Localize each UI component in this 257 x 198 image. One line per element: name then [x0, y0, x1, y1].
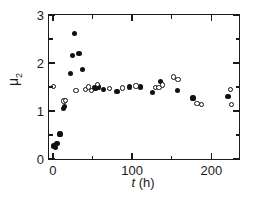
y-tick-label: 2 [37, 57, 44, 70]
y-axis-title-symbol: μ [5, 78, 21, 86]
x-tick-major [131, 153, 132, 159]
data-point-filled [54, 141, 59, 146]
data-point-open [229, 102, 234, 107]
data-point-filled [127, 84, 132, 89]
x-tick-major-top [211, 15, 212, 21]
data-point-filled [70, 53, 75, 58]
data-point-filled [57, 131, 62, 136]
y-tick-minor [49, 134, 53, 135]
y-tick-label: 3 [37, 9, 44, 22]
data-point-filled [101, 87, 106, 92]
x-tick-major [211, 153, 212, 159]
x-axis-title-unit: (h) [135, 175, 155, 190]
y-tick-label: 1 [37, 105, 44, 118]
y-axis-title-subscript: 2 [14, 73, 24, 78]
data-point-filled [62, 104, 67, 109]
data-point-filled [150, 90, 155, 95]
data-point-filled [175, 88, 180, 93]
y-tick-minor-right [236, 134, 240, 135]
x-tick-minor [92, 156, 93, 160]
data-point-filled [76, 51, 81, 56]
y-tick-major-right [233, 62, 239, 63]
data-point-open [133, 83, 138, 88]
data-point-open [107, 86, 112, 91]
y-tick-label: 0 [37, 153, 44, 166]
y-tick-minor-right [236, 86, 240, 87]
y-tick-minor [49, 86, 53, 87]
x-tick-major [52, 153, 53, 159]
data-point-open [89, 88, 94, 93]
data-point-open [73, 88, 78, 93]
y-tick-major [49, 62, 55, 63]
y-tick-major [49, 110, 55, 111]
data-point-open [160, 82, 165, 87]
y-tick-minor [49, 38, 53, 39]
data-point-filled [72, 31, 77, 36]
data-point-open [95, 82, 100, 87]
data-point-open [228, 87, 233, 92]
y-axis-title: μ2 [6, 73, 24, 86]
y-tick-major-right [233, 14, 239, 15]
x-tick-major-top [52, 15, 53, 21]
data-point-open [199, 102, 204, 107]
y-tick-major-right [233, 110, 239, 111]
x-tick-minor [171, 156, 172, 160]
x-tick-minor-top [92, 15, 93, 19]
data-point-open [63, 98, 68, 103]
data-point-filled [190, 95, 195, 100]
y-tick-minor-right [236, 38, 240, 39]
x-tick-major-top [131, 15, 132, 21]
data-point-filled [225, 94, 230, 99]
data-point-open [120, 85, 125, 90]
data-point-filled [114, 89, 119, 94]
y-tick-major-right [233, 158, 239, 159]
figure-scatter-plot: 01230100200 t (h) μ2 [0, 0, 257, 198]
x-axis-title: t (h) [48, 176, 238, 189]
plot-frame: 01230100200 [48, 14, 240, 160]
x-tick-minor-top [171, 15, 172, 19]
data-point-filled [138, 84, 143, 89]
plot-area [49, 15, 239, 159]
data-point-open [175, 77, 180, 82]
data-point-filled [80, 67, 85, 72]
data-point-filled [68, 71, 73, 76]
